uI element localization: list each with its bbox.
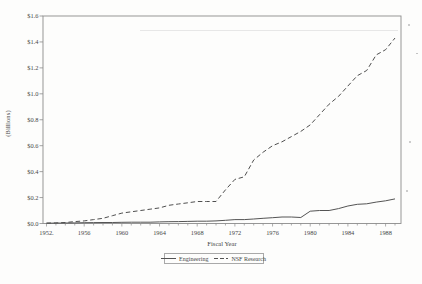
x-tick-label: 1960 (115, 229, 128, 236)
x-tick-label: 1984 (342, 229, 356, 236)
x-tick-label: 1972 (228, 229, 241, 236)
legend-dashed-line-swatch (214, 258, 228, 259)
legend-label-nsf-research: NSF Research (230, 256, 267, 262)
scan-speck (409, 141, 411, 143)
x-tick-label: 1968 (191, 229, 204, 236)
legend-solid-line-swatch (161, 258, 176, 259)
scan-speck (416, 53, 418, 54)
scanned-chart-page: $0.0$0.2$0.4$0.6$0.8$1.0$1.2$1.4$1.61952… (0, 0, 422, 284)
y-tick-label: $0.0 (27, 220, 38, 227)
x-axis-label: Fiscal Year (43, 240, 401, 247)
legend-label-engineering: Engineering (178, 256, 209, 262)
y-tick-label: $1.4 (27, 38, 39, 45)
x-tick-label: 1976 (266, 229, 279, 236)
x-tick-label: 1988 (379, 229, 392, 236)
x-tick-label: 1956 (78, 229, 91, 236)
y-tick-label: $0.2 (27, 194, 38, 201)
y-tick-label: $1.2 (27, 64, 38, 71)
scan-speck (408, 24, 410, 26)
scan-speck (406, 190, 408, 192)
engineering-series-line (47, 199, 396, 223)
y-tick-label: $1.0 (27, 90, 38, 97)
scan-streak (140, 30, 398, 31)
y-tick-label: $0.8 (27, 116, 38, 123)
x-tick-label: 1980 (304, 229, 317, 236)
plot-frame (43, 16, 401, 224)
y-axis-label: (Billions) (4, 96, 13, 152)
nsf-research-series-line (47, 38, 396, 223)
legend: Engineering NSF Research (164, 253, 264, 264)
y-tick-label: $0.6 (27, 142, 38, 149)
y-tick-label: $0.4 (27, 168, 39, 175)
y-tick-label: $1.6 (27, 12, 38, 19)
x-tick-label: 1952. (39, 229, 54, 236)
x-tick-label: 1964 (153, 229, 167, 236)
